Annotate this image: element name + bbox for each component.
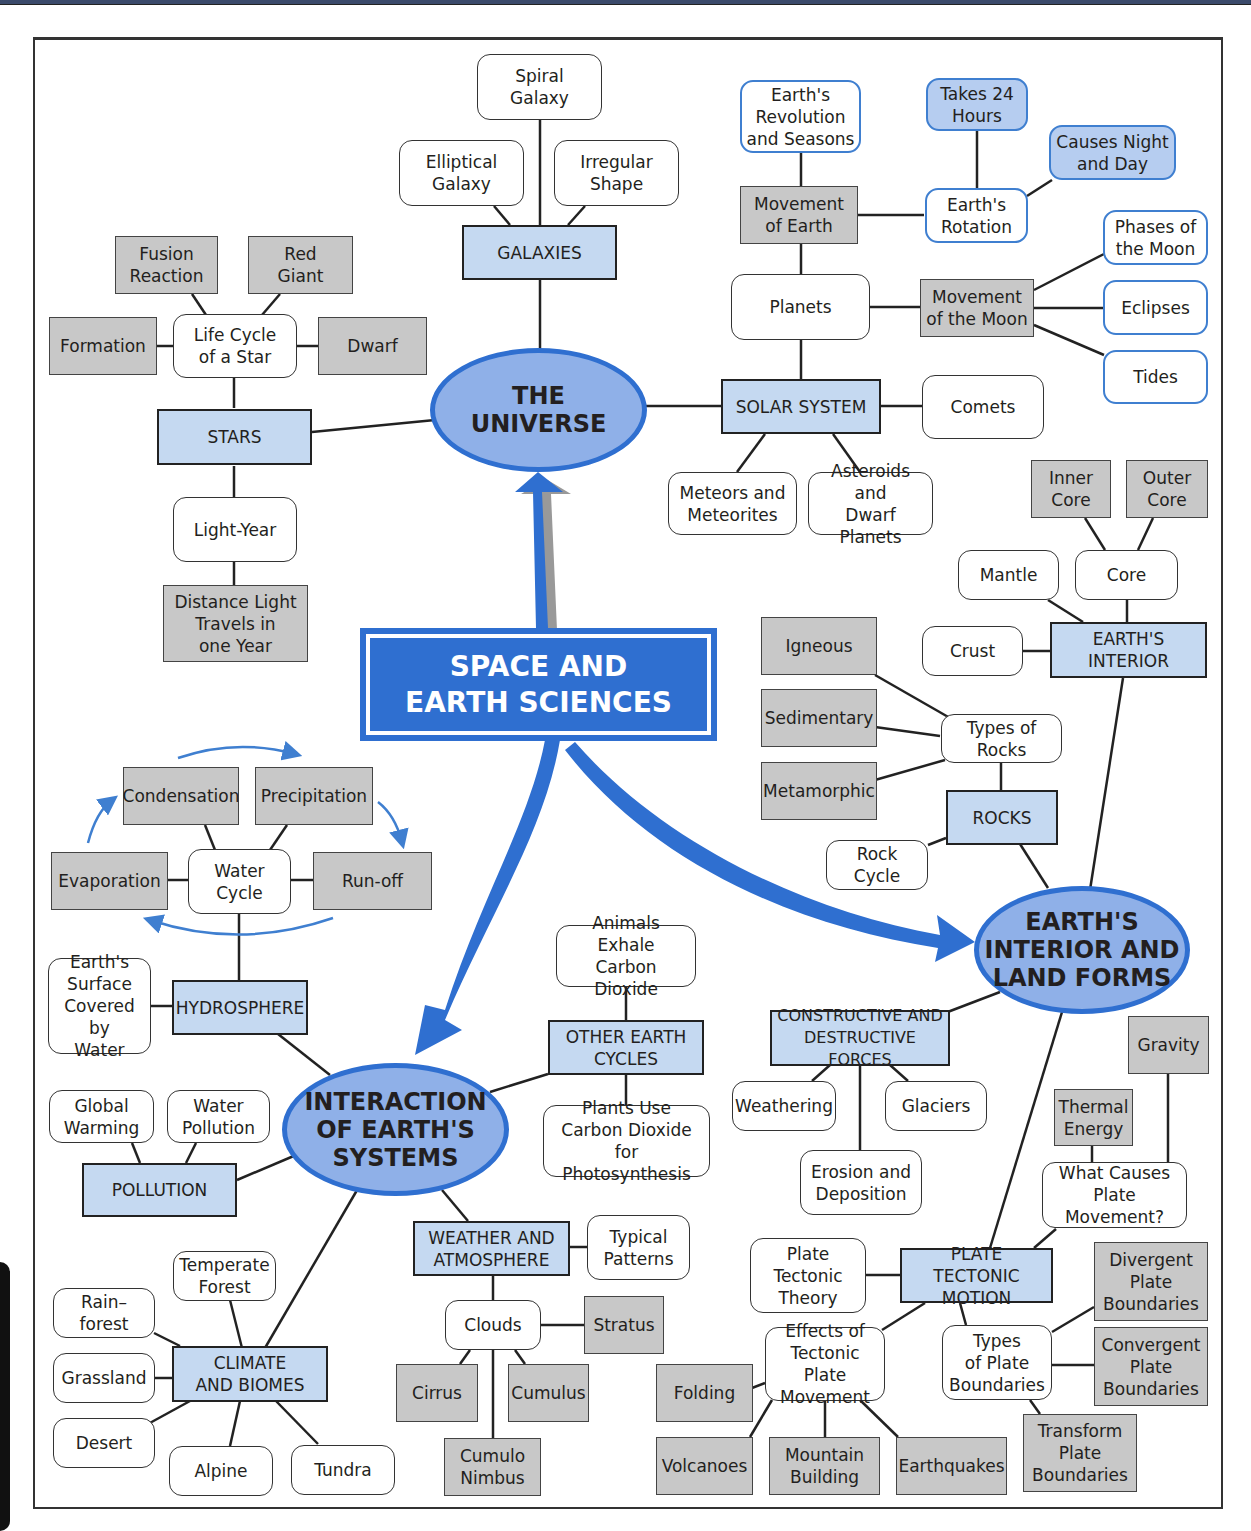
node-rainforest[interactable]: Rain– forest [53,1288,155,1338]
subtopic-plate-tectonic-motion[interactable]: PLATE TECTONIC MOTION [900,1248,1053,1303]
node-typical-patterns[interactable]: Typical Patterns [587,1215,690,1280]
node-metamorphic[interactable]: Metamorphic [761,762,877,820]
node-movement-of-the-moon[interactable]: Movement of the Moon [920,279,1034,337]
node-crust[interactable]: Crust [922,626,1023,676]
node-grassland[interactable]: Grassland [53,1353,155,1403]
node-glaciers[interactable]: Glaciers [885,1081,987,1131]
subtopic-weather-and-atmosphere[interactable]: WEATHER AND ATMOSPHERE [413,1221,570,1276]
node-alpine[interactable]: Alpine [169,1446,273,1496]
subtopic-rocks[interactable]: ROCKS [946,790,1058,845]
node-earths-rotation[interactable]: Earth's Rotation [925,188,1028,243]
node-erosion-and-deposition[interactable]: Erosion and Deposition [800,1150,922,1215]
node-volcanoes[interactable]: Volcanoes [656,1437,753,1495]
node-convergent-plate-boundaries[interactable]: Convergent Plate Boundaries [1094,1327,1208,1406]
node-temperate-forest[interactable]: Temperate Forest [173,1251,276,1301]
subtopic-constructive-destructive-forces[interactable]: CONSTRUCTIVE AND DESTRUCTIVE FORCES [770,1010,950,1066]
node-stratus[interactable]: Stratus [584,1296,664,1354]
node-run-off[interactable]: Run-off [313,852,432,910]
topic-earths-interior-and-land-forms[interactable]: EARTH'S INTERIOR AND LAND FORMS [974,886,1190,1014]
topic-the-universe[interactable]: THE UNIVERSE [430,348,647,472]
node-distance-light-travels[interactable]: Distance Light Travels in one Year [163,585,308,662]
central-topic-space-earth-sciences[interactable]: SPACE AND EARTH SCIENCES [360,628,717,741]
node-rock-cycle[interactable]: Rock Cycle [826,840,928,890]
node-movement-of-earth[interactable]: Movement of Earth [740,186,858,244]
node-gravity[interactable]: Gravity [1128,1016,1209,1074]
node-igneous[interactable]: Igneous [761,617,877,675]
node-types-of-plate-boundaries[interactable]: Types of Plate Boundaries [942,1325,1052,1400]
node-what-causes-plate-movement[interactable]: What Causes Plate Movement? [1042,1162,1187,1228]
subtopic-stars[interactable]: STARS [157,409,312,465]
node-desert[interactable]: Desert [53,1418,155,1468]
node-formation[interactable]: Formation [49,317,157,375]
node-clouds[interactable]: Clouds [445,1300,541,1350]
node-fusion-reaction[interactable]: Fusion Reaction [115,236,218,294]
node-animals-exhale-carbon-dioxide[interactable]: Animals Exhale Carbon Dioxide [556,925,696,987]
node-transform-plate-boundaries[interactable]: Transform Plate Boundaries [1023,1414,1137,1492]
node-tundra[interactable]: Tundra [291,1445,395,1495]
node-earthquakes[interactable]: Earthquakes [896,1437,1007,1495]
node-dwarf[interactable]: Dwarf [318,317,427,375]
node-causes-night-and-day[interactable]: Causes Night and Day [1049,125,1176,180]
node-life-cycle-of-a-star[interactable]: Life Cycle of a Star [173,314,297,378]
node-evaporation[interactable]: Evaporation [51,852,168,910]
node-asteroids-and-dwarf-planets[interactable]: Asteroids and Dwarf Planets [808,472,933,535]
node-earths-surface-covered-by-water[interactable]: Earth's Surface Covered by Water [48,958,151,1054]
node-light-year[interactable]: Light-Year [173,497,297,562]
node-mountain-building[interactable]: Mountain Building [769,1437,880,1495]
node-cirrus[interactable]: Cirrus [396,1364,478,1422]
subtopic-solar-system[interactable]: SOLAR SYSTEM [721,379,881,434]
node-tides[interactable]: Tides [1103,350,1208,404]
node-sedimentary[interactable]: Sedimentary [761,689,877,747]
node-mantle[interactable]: Mantle [958,550,1059,600]
node-plate-tectonic-theory[interactable]: Plate Tectonic Theory [750,1238,866,1313]
node-inner-core[interactable]: Inner Core [1031,460,1111,518]
subtopic-climate-and-biomes[interactable]: CLIMATE AND BIOMES [172,1346,328,1402]
node-cumulo-nimbus[interactable]: Cumulo Nimbus [444,1438,541,1496]
node-weathering[interactable]: Weathering [732,1081,836,1131]
node-comets[interactable]: Comets [922,375,1044,439]
node-divergent-plate-boundaries[interactable]: Divergent Plate Boundaries [1094,1242,1208,1321]
node-planets[interactable]: Planets [731,274,870,340]
subtopic-earths-interior[interactable]: EARTH'S INTERIOR [1050,622,1207,678]
subtopic-other-earth-cycles[interactable]: OTHER EARTH CYCLES [548,1020,704,1075]
node-eclipses[interactable]: Eclipses [1103,280,1208,335]
subtopic-hydrosphere[interactable]: HYDROSPHERE [172,980,308,1035]
node-water-cycle[interactable]: Water Cycle [188,849,291,914]
node-plants-use-carbon-dioxide[interactable]: Plants Use Carbon Dioxide for Photosynth… [543,1105,710,1177]
node-core[interactable]: Core [1075,550,1178,600]
node-water-pollution[interactable]: Water Pollution [167,1090,270,1143]
node-condensation[interactable]: Condensation [123,767,239,825]
node-folding[interactable]: Folding [656,1364,753,1422]
node-elliptical-galaxy[interactable]: Elliptical Galaxy [399,140,524,206]
node-cumulus[interactable]: Cumulus [508,1364,589,1422]
node-effects-of-tectonic-plate-movement[interactable]: Effects of Tectonic Plate Movement [765,1327,885,1401]
node-thermal-energy[interactable]: Thermal Energy [1054,1089,1133,1146]
node-earths-revolution-and-seasons[interactable]: Earth's Revolution and Seasons [740,80,861,153]
node-spiral-galaxy[interactable]: Spiral Galaxy [477,54,602,120]
node-global-warming[interactable]: Global Warming [49,1090,154,1143]
subtopic-galaxies[interactable]: GALAXIES [462,225,617,280]
subtopic-pollution[interactable]: POLLUTION [82,1163,237,1217]
topic-interaction-of-earths-systems[interactable]: INTERACTION OF EARTH'S SYSTEMS [282,1063,509,1196]
node-phases-of-the-moon[interactable]: Phases of the Moon [1103,210,1208,265]
node-meteors-and-meteorites[interactable]: Meteors and Meteorites [668,472,797,535]
node-red-giant[interactable]: Red Giant [248,236,353,294]
node-takes-24-hours[interactable]: Takes 24 Hours [926,78,1028,131]
node-irregular-shape[interactable]: Irregular Shape [554,140,679,206]
node-types-of-rocks[interactable]: Types of Rocks [941,714,1062,763]
node-outer-core[interactable]: Outer Core [1126,460,1208,518]
node-precipitation[interactable]: Precipitation [255,767,373,825]
